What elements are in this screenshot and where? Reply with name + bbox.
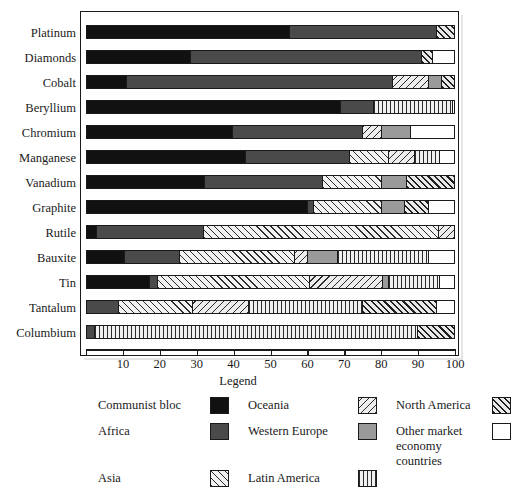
- x-tick-label-10: 10: [117, 357, 130, 372]
- segment-africa: [87, 326, 94, 338]
- segment-latinamerica: [373, 101, 452, 113]
- bar-series-area: [86, 15, 455, 345]
- legend-label-blank: [396, 469, 492, 471]
- legend-swatch-asia: [210, 470, 229, 487]
- segment-latinamerica: [388, 276, 439, 288]
- legend-label-latinamerica: Latin America: [248, 469, 358, 486]
- bar-cobalt: [86, 75, 455, 89]
- segment-communist: [87, 151, 245, 163]
- legend-label-northamerica: North America: [396, 396, 492, 413]
- legend-swatch-communist: [210, 397, 229, 414]
- segment-communist: [87, 126, 232, 138]
- segment-africa: [87, 301, 118, 313]
- segment-oceania: [438, 226, 455, 238]
- segment-northamerica: [421, 51, 432, 63]
- segment-other: [432, 51, 454, 63]
- x-tick-0: [86, 349, 87, 355]
- legend-swatch-other: [492, 423, 511, 440]
- segment-westeurope: [307, 251, 336, 263]
- segment-africa: [204, 176, 321, 188]
- category-axis-labels: PlatinumDiamondsCobaltBerylliumChromiumM…: [0, 11, 76, 341]
- segment-asia: [349, 151, 388, 163]
- x-tick-label-80: 80: [375, 357, 388, 372]
- segment-oceania: [309, 276, 382, 288]
- x-tick-label-100: 100: [446, 357, 465, 372]
- x-tick-label-20: 20: [154, 357, 167, 372]
- legend-label-other: Other market economy countries: [396, 422, 492, 469]
- x-tick-30: [197, 349, 198, 355]
- segment-other: [428, 251, 454, 263]
- legend-swatch-northamerica: [492, 397, 511, 414]
- segment-africa: [190, 51, 421, 63]
- category-label-diamonds: Diamonds: [25, 52, 76, 65]
- category-label-tantalum: Tantalum: [29, 302, 76, 315]
- category-label-vanadium: Vanadium: [25, 177, 76, 190]
- category-label-cobalt: Cobalt: [43, 77, 76, 90]
- segment-africa: [289, 26, 436, 38]
- category-label-beryllium: Beryllium: [25, 102, 76, 115]
- segment-latinamerica: [337, 251, 429, 263]
- segment-asia: [179, 251, 295, 263]
- category-label-platinum: Platinum: [31, 27, 76, 40]
- x-tick-90: [418, 349, 419, 355]
- segment-westeurope: [381, 201, 405, 213]
- x-tick-40: [234, 349, 235, 355]
- x-tick-label-30: 30: [190, 357, 203, 372]
- segment-communist: [87, 201, 307, 213]
- segment-oceania: [388, 151, 414, 163]
- segment-other: [410, 126, 454, 138]
- segment-africa: [126, 76, 392, 88]
- legend: Legend Communist blocOceaniaNorth Americ…: [78, 374, 478, 478]
- segment-communist: [87, 226, 96, 238]
- segment-other: [439, 151, 454, 163]
- segment-northamerica: [404, 201, 428, 213]
- segment-asia: [118, 301, 191, 313]
- category-label-chromium: Chromium: [22, 127, 76, 140]
- segment-communist: [87, 276, 149, 288]
- x-tick-60: [307, 349, 308, 355]
- x-tick-20: [160, 349, 161, 355]
- segment-northamerica: [417, 326, 454, 338]
- bar-graphite: [86, 200, 455, 214]
- legend-label-africa: Africa: [98, 422, 210, 439]
- x-tick-label-60: 60: [301, 357, 314, 372]
- bar-bauxite: [86, 250, 455, 264]
- bar-rutile: [86, 225, 455, 239]
- segment-communist: [87, 76, 126, 88]
- segment-oceania: [294, 251, 307, 263]
- legend-label-westeurope: Western Europe: [248, 422, 358, 439]
- segment-communist: [87, 26, 289, 38]
- x-tick-label-50: 50: [264, 357, 277, 372]
- segment-communist: [87, 51, 190, 63]
- x-tick-80: [381, 349, 382, 355]
- bar-chromium: [86, 125, 455, 139]
- bar-vanadium: [86, 175, 455, 189]
- segment-oceania: [362, 126, 380, 138]
- bar-columbium: [86, 325, 455, 339]
- category-label-columbium: Columbium: [16, 327, 76, 340]
- bar-beryllium: [86, 100, 455, 114]
- segment-communist: [87, 176, 204, 188]
- segment-communist: [87, 251, 124, 263]
- bar-manganese: [86, 150, 455, 164]
- segment-asia: [322, 176, 381, 188]
- x-tick-70: [344, 349, 345, 355]
- x-tick-100: [455, 349, 456, 355]
- segment-northamerica: [406, 176, 454, 188]
- x-tick-label-70: 70: [338, 357, 351, 372]
- segment-asia: [313, 201, 381, 213]
- legend-swatch-africa: [210, 423, 229, 440]
- bar-platinum: [86, 25, 455, 39]
- segment-other: [428, 201, 454, 213]
- segment-latinamerica: [94, 326, 417, 338]
- category-label-rutile: Rutile: [45, 227, 76, 240]
- legend-entries: Communist blocOceaniaNorth AmericaAfrica…: [98, 396, 515, 491]
- segment-communist: [87, 101, 340, 113]
- segment-westeurope: [428, 76, 441, 88]
- legend-swatch-oceania: [358, 397, 377, 414]
- bar-diamonds: [86, 50, 455, 64]
- segment-westeurope: [381, 126, 410, 138]
- segment-latinamerica: [414, 151, 440, 163]
- segment-latinamerica: [248, 301, 362, 313]
